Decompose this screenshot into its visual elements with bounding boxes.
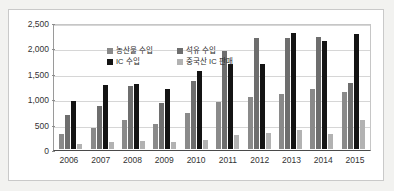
y-axis-tick-mark [52, 151, 55, 152]
bar [197, 71, 202, 149]
bar [328, 134, 333, 149]
bar [65, 115, 70, 149]
bar [91, 128, 96, 149]
x-axis-tick-label: 2010 [180, 155, 212, 171]
legend-swatch-icon [177, 48, 183, 54]
bar [279, 94, 284, 149]
bar [260, 64, 265, 150]
legend-item: IC 수입 [107, 57, 177, 66]
bar [97, 106, 102, 149]
y-axis-tick-label: 1,000 [9, 95, 49, 105]
bar [191, 81, 196, 149]
bar [122, 120, 127, 149]
y-axis: 2,5002,0001,5001,0005000 [9, 24, 49, 151]
y-axis-tick-mark [52, 24, 55, 25]
x-axis-tick-label: 2006 [53, 155, 85, 171]
bar-group [55, 26, 86, 149]
bar-group [275, 26, 306, 149]
bar [348, 83, 353, 150]
bar [216, 102, 221, 149]
legend-label: IC 수입 [116, 57, 140, 66]
legend-swatch-icon [107, 48, 113, 54]
bar [266, 133, 271, 149]
bar [310, 89, 315, 149]
x-axis-tick-label: 2011 [212, 155, 244, 171]
y-axis-tick-label: 500 [9, 121, 49, 131]
bar [153, 124, 158, 150]
bar-group [118, 26, 149, 149]
bar [128, 86, 133, 150]
bar [354, 34, 359, 150]
bar-groups [55, 26, 369, 149]
y-axis-tick-mark [52, 100, 55, 101]
bar [134, 84, 139, 149]
bar [159, 103, 164, 149]
bar [203, 140, 208, 149]
legend-label: 농산물 수입 [116, 46, 153, 55]
chart-panel: 2,5002,0001,5001,0005000 농산물 수입석유 수입IC 수… [8, 9, 384, 181]
legend-swatch-icon [177, 59, 183, 65]
bar [103, 85, 108, 150]
x-axis: 2006200720082009201020112012201320142015 [53, 155, 371, 171]
legend-item: 중국산 IC 판매 [177, 57, 247, 66]
x-axis-tick-label: 2012 [244, 155, 276, 171]
chart-legend: 농산물 수입석유 수입IC 수입중국산 IC 판매 [107, 46, 247, 68]
bar [185, 113, 190, 149]
bar-group [306, 26, 337, 149]
bar [254, 38, 259, 150]
y-axis-tick-label: 2,000 [9, 44, 49, 54]
legend-label: 석유 수입 [186, 46, 216, 55]
bar-group [212, 26, 243, 149]
bar [248, 97, 253, 149]
x-axis-tick-label: 2015 [339, 155, 371, 171]
plot-area [53, 24, 371, 151]
bar [297, 130, 302, 150]
legend-item: 석유 수입 [177, 46, 247, 55]
legend-swatch-icon [107, 59, 113, 65]
y-axis-tick-mark [52, 75, 55, 76]
x-axis-tick-label: 2013 [276, 155, 308, 171]
bar [342, 92, 347, 149]
legend-label: 중국산 IC 판매 [186, 57, 233, 66]
bar [228, 64, 233, 149]
y-axis-tick-label: 1,500 [9, 70, 49, 80]
y-axis-tick-mark [52, 49, 55, 50]
y-axis-tick-label: 2,500 [9, 19, 49, 29]
y-axis-tick-mark [52, 126, 55, 127]
bar [285, 38, 290, 150]
bar [165, 89, 170, 149]
bar [77, 144, 82, 150]
bar [316, 37, 321, 150]
x-axis-tick-label: 2008 [117, 155, 149, 171]
x-axis-tick-label: 2014 [307, 155, 339, 171]
bar [234, 135, 239, 149]
bar [291, 33, 296, 149]
x-axis-tick-label: 2009 [148, 155, 180, 171]
bar-group [149, 26, 180, 149]
bar [59, 134, 64, 150]
bar-group [181, 26, 212, 149]
bar [71, 101, 76, 149]
bar [322, 41, 327, 150]
plot-wrapper: 농산물 수입석유 수입IC 수입중국산 IC 판매 [53, 24, 371, 151]
bar-group [338, 26, 369, 149]
bar [140, 141, 145, 149]
bar [360, 120, 365, 149]
y-axis-tick-label: 0 [9, 146, 49, 156]
x-axis-tick-label: 2007 [85, 155, 117, 171]
legend-item: 농산물 수입 [107, 46, 177, 55]
bar [109, 142, 114, 149]
bar [171, 142, 176, 149]
bar-group [243, 26, 274, 149]
bar-group [86, 26, 117, 149]
